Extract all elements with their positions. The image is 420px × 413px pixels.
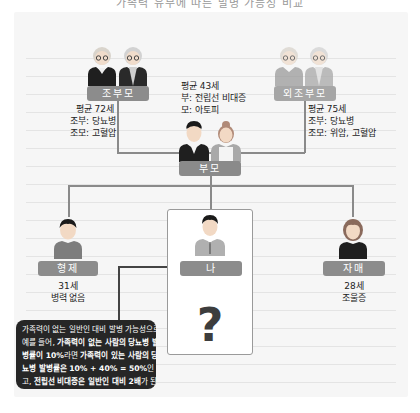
connector-line [117,99,119,152]
connector-line [304,99,306,153]
paternal-grandparents-label: 조부모 [87,86,149,101]
maternal-grandparents-info: 평균 75세 조부: 당뇨병 조모: 위암, 고혈압 [308,103,376,139]
info-line: 평균 72세 [70,103,114,115]
grandmother-icon [273,44,305,90]
explanation-callout: 가족력이 없는 일반인 대비 발병 가능성으로예를 들어, 가족력이 없는 사람… [16,320,156,389]
callout-segment: 예를 들어, [22,338,57,347]
grandfather-icon [303,44,335,90]
info-line: 조부: 당뇨병 [308,115,376,127]
callout-segment: 가족력이 없는 일반인 대비 발병 가능성으로 [22,325,156,334]
info-line: 31세 [38,280,98,292]
maternal-grandparents-label: 외조부모 [274,86,336,101]
callout-segment: 가 된다. [141,377,156,386]
callout-segment: 전립선 비대증은 일반인 대비 2배 [34,377,141,386]
sister-info: 28세 조울증 [323,280,385,304]
paternal-grandparents-info: 평균 72세 조부: 당뇨병 조모: 고혈압 [70,103,114,139]
me-icon [194,212,226,260]
parents-label: 부모 [179,161,241,176]
connector-line [118,266,120,322]
callout-line: 예를 들어, 가족력이 없는 사람의 당뇨병 발 [22,336,152,349]
callout-text: 가족력이 없는 일반인 대비 발병 가능성으로예를 들어, 가족력이 없는 사람… [22,323,152,388]
callout-segment: 라면 [64,351,80,360]
connector-line [352,185,354,217]
background-rule [26,76,396,77]
info-line: 조모: 위암, 고혈압 [308,127,376,139]
sister-label: 자매 [323,261,385,276]
brother-label: 형제 [38,261,98,276]
grandfather-icon [117,44,149,90]
info-line: 조울증 [323,292,385,304]
info-line: 28세 [323,280,385,292]
callout-segment: 고, [22,377,34,386]
connector-line [210,172,212,210]
info-line: 부: 전립선 비대증 [181,92,246,104]
callout-line: 가족력이 없는 일반인 대비 발병 가능성으로 [22,323,152,336]
father-icon [178,118,210,166]
callout-line: 뇨병 발병률은 10% + 40% = 50%인 것이 [22,362,152,375]
parents-info: 평균 43세 부: 전립선 비대증 모: 아토피 [181,80,246,116]
info-line: 평균 43세 [181,80,246,92]
question-mark: ? [168,298,252,352]
info-line: 조모: 고혈압 [70,127,114,139]
callout-line: 병률이 10%라면 가족력이 있는 사람의 당 [22,349,152,362]
callout-line: 고, 전립선 비대증은 일반인 대비 2배가 된다. [22,375,152,388]
connector-line [68,185,70,217]
sister-icon [336,215,370,263]
grandmother-icon [86,44,118,90]
top-caption: 가족력 유무에 따른 발병 가능성 비교 [0,0,420,10]
callout-segment: 병률이 10% [22,351,64,360]
mother-icon [210,118,242,166]
info-line: 모: 아토피 [181,104,246,116]
connector-line [68,185,353,187]
info-line: 병력 없음 [38,292,98,304]
info-line: 평균 75세 [308,103,376,115]
callout-segment: 뇨병 발병률은 10% + 40% = 50% [22,364,147,373]
brother-info: 31세 병력 없음 [38,280,98,304]
background-rule [26,58,396,59]
callout-segment: 가족력이 있는 사람의 당 [80,351,156,360]
me-label: 나 [180,261,242,276]
brother-icon [51,215,85,263]
callout-segment: 인 것이 [147,364,156,373]
info-line: 조부: 당뇨병 [70,115,114,127]
callout-segment: 가족력이 없는 사람의 당뇨병 발 [57,338,156,347]
